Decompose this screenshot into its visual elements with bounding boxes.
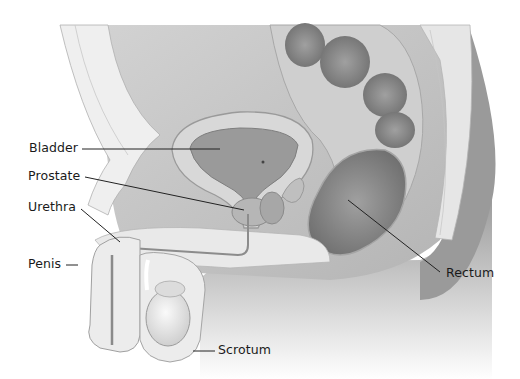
label-prostate: Prostate xyxy=(28,169,80,183)
penis-shape xyxy=(89,237,140,352)
testis-shape xyxy=(146,290,190,346)
anatomy-illustration xyxy=(0,0,520,379)
label-rectum: Rectum xyxy=(446,266,494,280)
label-urethra: Urethra xyxy=(28,200,76,214)
label-scrotum: Scrotum xyxy=(218,343,271,357)
label-penis: Penis xyxy=(28,257,61,271)
label-bladder: Bladder xyxy=(29,141,78,155)
